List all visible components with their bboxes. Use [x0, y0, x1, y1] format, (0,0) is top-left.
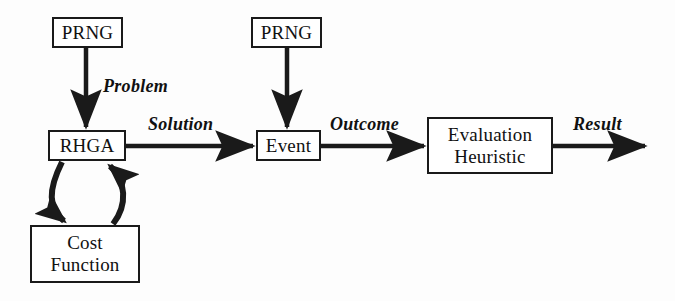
diagram-canvas: PRNG PRNG RHGA Event Evaluation Heuristi… — [0, 0, 675, 301]
node-label: PRNG — [261, 23, 312, 43]
edge-label-problem: Problem — [103, 76, 168, 97]
node-cost-function[interactable]: Cost Function — [30, 225, 140, 283]
node-label: PRNG — [62, 23, 113, 43]
node-prng-source[interactable]: PRNG — [52, 17, 123, 48]
node-label: Event — [266, 136, 311, 156]
node-label-line-2: Heuristic — [454, 147, 525, 167]
node-event[interactable]: Event — [256, 130, 321, 161]
edge-label-result: Result — [573, 114, 622, 135]
node-label-line-1: Cost — [67, 233, 103, 253]
edge-cost-to-rhga — [110, 166, 123, 224]
edge-label-solution: Solution — [148, 114, 213, 135]
node-rhga[interactable]: RHGA — [48, 130, 126, 161]
node-label: RHGA — [60, 136, 115, 156]
node-label-line-2: Function — [50, 255, 119, 275]
edge-rhga-to-cost — [52, 162, 64, 221]
edge-label-outcome: Outcome — [330, 114, 399, 135]
node-label-line-1: Evaluation — [448, 125, 532, 145]
node-prng-event[interactable]: PRNG — [251, 17, 322, 48]
node-evaluation-heuristic[interactable]: Evaluation Heuristic — [427, 117, 553, 174]
